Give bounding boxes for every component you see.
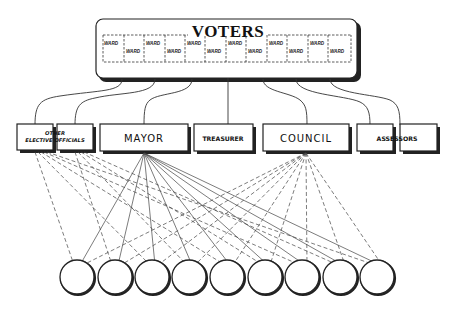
other-elective-officials-box: OTHER ELECTIVE OFFICIALS bbox=[17, 124, 96, 153]
ward-label: WARD bbox=[310, 41, 325, 46]
department-circle bbox=[210, 260, 245, 295]
ward-label: WARD bbox=[330, 49, 345, 54]
ward-label: WARD bbox=[248, 49, 263, 54]
assessors-label: ASSESSORS bbox=[377, 135, 418, 142]
ward-label: WARD bbox=[269, 41, 284, 46]
department-circle bbox=[285, 260, 320, 295]
department-circles bbox=[60, 260, 395, 295]
ward-label: WARD bbox=[187, 41, 202, 46]
voter-connectors bbox=[35, 78, 400, 125]
ward-label: WARD bbox=[228, 41, 243, 46]
ward-label: WARD bbox=[146, 41, 161, 46]
mayor-label: MAYOR bbox=[124, 133, 164, 144]
mayor-box: MAYOR bbox=[100, 124, 191, 154]
assessors-box: ASSESSORS bbox=[357, 124, 440, 154]
ward-label: WARD bbox=[289, 49, 304, 54]
ward-label: WARD bbox=[207, 49, 222, 54]
ward-label: WARD bbox=[104, 41, 119, 46]
department-circle bbox=[323, 260, 358, 295]
treasurer-label: TREASURER bbox=[202, 135, 243, 142]
council-box: COUNCIL bbox=[263, 124, 352, 154]
department-circle bbox=[172, 260, 207, 295]
department-circle bbox=[360, 260, 395, 295]
office-row: OTHER ELECTIVE OFFICIALS MAYOR TREASURER… bbox=[17, 124, 440, 154]
council-label: COUNCIL bbox=[280, 133, 332, 144]
dashed-lines-council bbox=[83, 153, 382, 265]
ward-label: WARD bbox=[167, 49, 182, 54]
organization-chart: VOTERS WARD WARD WARD WARD WARD WARD WAR… bbox=[0, 0, 455, 311]
solid-lines-mayor bbox=[80, 153, 380, 265]
other-label-line1: OTHER bbox=[45, 130, 65, 136]
treasurer-box: TREASURER bbox=[194, 124, 256, 154]
other-label-line2: ELECTIVE OFFICIALS bbox=[25, 137, 85, 143]
voters-title: VOTERS bbox=[192, 22, 265, 41]
voters-box: VOTERS WARD WARD WARD WARD WARD WARD WAR… bbox=[96, 19, 361, 82]
department-circle bbox=[135, 260, 170, 295]
ward-label: WARD bbox=[126, 49, 141, 54]
department-circle bbox=[60, 260, 95, 295]
department-circle bbox=[98, 260, 133, 295]
department-circle bbox=[248, 260, 283, 295]
